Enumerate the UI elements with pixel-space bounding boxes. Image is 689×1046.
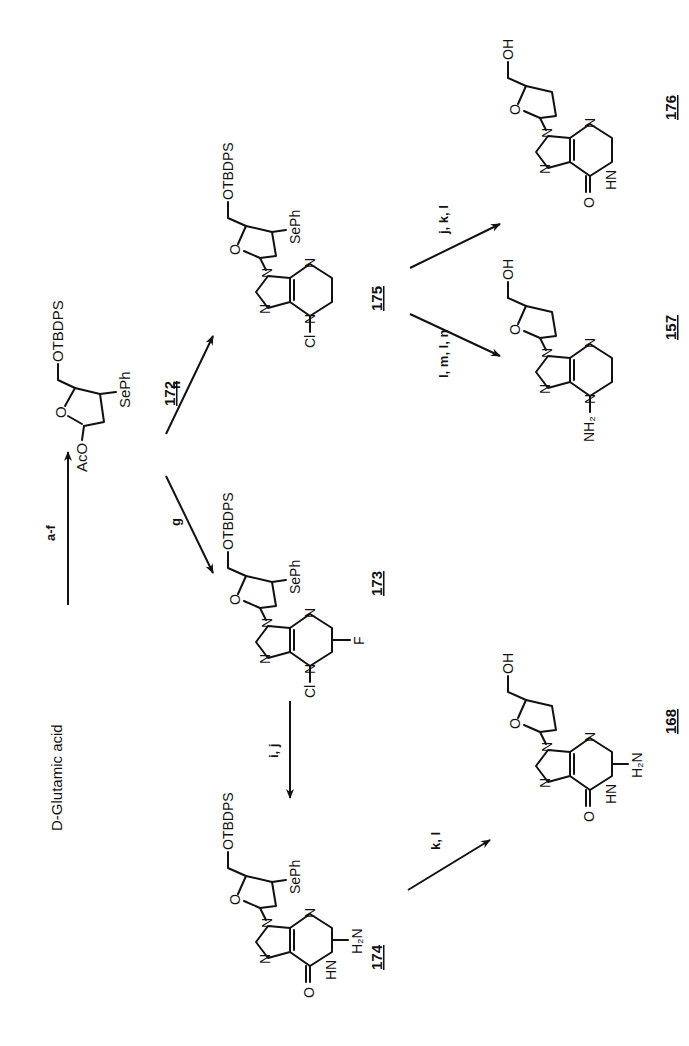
compound-172: O OTBDPS AcO SePh 172	[49, 300, 178, 472]
svg-text:N: N	[582, 118, 598, 128]
compound-number-173: 173	[368, 571, 385, 596]
compound-number-176: 176	[662, 95, 679, 120]
compound-175: N N N N Cl O OTBDPS SePh 175	[220, 142, 385, 348]
amine-label: H₂N	[349, 928, 365, 954]
chloro-label: Cl	[302, 685, 318, 698]
svg-text:N: N	[539, 128, 555, 138]
compound-173: N N N N Cl F O OTBDPS SePh 173	[220, 492, 385, 698]
svg-text:N: N	[537, 164, 553, 174]
compound-176: N N N O HN O OH 176	[500, 39, 679, 208]
svg-text:O: O	[507, 718, 523, 729]
svg-text:N: N	[539, 348, 555, 358]
svg-text:O: O	[227, 894, 243, 905]
arrow-k-l: k, l	[408, 832, 490, 890]
svg-text:O: O	[507, 324, 523, 335]
otbdps-label: OTBDPS	[49, 300, 66, 362]
svg-text:N: N	[302, 258, 318, 268]
seph-label: SePh	[287, 860, 303, 894]
nh-label: HN	[603, 170, 619, 190]
hydroxyl-label: OH	[500, 653, 516, 674]
svg-text:N: N	[539, 742, 555, 752]
hydroxyl-label: OH	[500, 39, 516, 60]
otbdps-label: OTBDPS	[220, 792, 236, 850]
svg-text:N: N	[582, 732, 598, 742]
reagent-label-a-f: a-f	[43, 524, 58, 541]
svg-text:N: N	[257, 304, 273, 314]
arrow-g: g	[166, 476, 213, 573]
arrow-j-k-l: j, k, l	[410, 205, 500, 268]
arrow-l-m-l-n: l, m, l, n	[410, 314, 500, 378]
svg-text:N: N	[582, 338, 598, 348]
reagent-label-i-j: i, j	[266, 744, 281, 758]
svg-text:N: N	[259, 618, 275, 628]
svg-text:N: N	[257, 654, 273, 664]
compound-157: N N N N NH₂ O OH 157	[500, 259, 679, 442]
arrow-i-j: i, j	[266, 701, 290, 798]
svg-text:N: N	[537, 384, 553, 394]
amine-label: NH₂	[581, 416, 597, 442]
reagent-label-j-k-l: j, k, l	[436, 205, 451, 235]
nh-label: HN	[323, 960, 339, 980]
carbonyl-o-label: O	[581, 811, 597, 822]
hydroxyl-label: OH	[500, 259, 516, 280]
otbdps-label: OTBDPS	[220, 492, 236, 550]
compound-174: N N N O HN H₂N O OTBDPS SePh 174	[220, 792, 385, 998]
arrow-a-f: a-f	[43, 452, 68, 605]
compound-number-168: 168	[662, 709, 679, 734]
reagent-label-g: g	[168, 518, 183, 526]
svg-text:N: N	[302, 608, 318, 618]
arrow-h: h	[166, 336, 213, 434]
fluoro-label: F	[351, 636, 367, 645]
svg-text:O: O	[227, 594, 243, 605]
starting-material-label: D-Glutamic acid	[48, 724, 65, 831]
svg-text:N: N	[537, 778, 553, 788]
svg-text:O: O	[227, 244, 243, 255]
nh-label: HN	[603, 784, 619, 804]
svg-text:O: O	[52, 406, 69, 418]
svg-text:N: N	[259, 918, 275, 928]
aco-label: AcO	[73, 443, 90, 472]
carbonyl-o-label: O	[301, 987, 317, 998]
svg-text:N: N	[259, 268, 275, 278]
seph-label: SePh	[116, 371, 133, 408]
amine-label: H₂N	[629, 752, 645, 778]
reaction-scheme: D-Glutamic acid a-f O OTBDPS AcO SePh 17…	[0, 0, 689, 1046]
compound-168: N N N O HN H₂N O OH 168	[500, 653, 679, 822]
svg-text:N: N	[257, 954, 273, 964]
carbonyl-o-label: O	[581, 197, 597, 208]
otbdps-label: OTBDPS	[220, 142, 236, 200]
compound-number-174: 174	[368, 944, 385, 970]
reagent-label-k-l: k, l	[428, 832, 443, 850]
chloro-label: Cl	[302, 335, 318, 348]
seph-label: SePh	[287, 560, 303, 594]
compound-number-175: 175	[368, 286, 385, 311]
compound-number-157: 157	[662, 315, 679, 340]
seph-label: SePh	[287, 210, 303, 244]
reagent-label-l-m-l-n: l, m, l, n	[436, 330, 451, 378]
svg-text:O: O	[507, 104, 523, 115]
reagent-label-h: h	[168, 381, 183, 389]
svg-text:N: N	[302, 908, 318, 918]
